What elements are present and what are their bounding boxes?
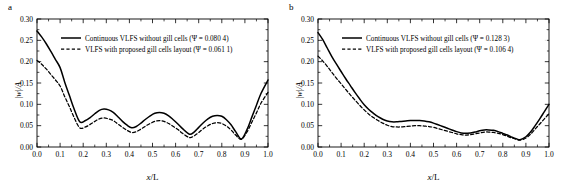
x-tick-label: 0.3: [383, 150, 393, 159]
y-tick-label: 0.05: [20, 121, 33, 130]
x-tick-label: 0.3: [102, 150, 112, 159]
y-tick-label: 0.30: [301, 15, 314, 24]
x-tick-label: 0.2: [360, 150, 370, 159]
plot-area: 0.00.10.20.30.40.50.60.70.80.91.00.000.0…: [281, 0, 562, 193]
y-tick-label: 0.20: [20, 57, 33, 66]
x-tick-label: 0.7: [475, 150, 485, 159]
y-tick-label: 0.25: [20, 36, 33, 45]
plot-area: 0.00.10.20.30.40.50.60.70.80.91.00.000.0…: [0, 0, 281, 193]
x-tick-label: 0.6: [452, 150, 462, 159]
figure-container: a|w|/Ax/L0.00.10.20.30.40.50.60.70.80.91…: [0, 0, 562, 193]
x-tick-label: 0.2: [79, 150, 89, 159]
y-axis-title: |w|/A: [295, 82, 304, 99]
y-tick-label: 0.00: [20, 143, 33, 152]
legend-label: Continuous VLFS without gill cells (Ψ = …: [366, 35, 510, 43]
x-tick-label: 0.0: [32, 150, 42, 159]
y-tick-label: 0.30: [20, 15, 33, 24]
y-tick-label: 0.00: [301, 143, 314, 152]
x-axis-title: x/L: [37, 172, 268, 182]
legend-label: VLFS with proposed gill cells layout (Ψ …: [366, 46, 514, 54]
x-tick-label: 0.8: [217, 150, 227, 159]
x-tick-label: 0.4: [406, 150, 416, 159]
panel-label: a: [8, 2, 12, 12]
x-axis-title: x/L: [318, 172, 549, 182]
x-tick-label: 0.8: [498, 150, 508, 159]
legend-label: Continuous VLFS without gill cells (Ψ = …: [85, 35, 229, 43]
x-tick-label: 0.6: [171, 150, 181, 159]
x-tick-label: 0.1: [55, 150, 65, 159]
x-tick-label: 0.9: [521, 150, 531, 159]
data-series-dashed: [318, 56, 549, 140]
chart-panel-b: b|w|/Ax/L0.00.10.20.30.40.50.60.70.80.91…: [281, 0, 562, 193]
x-tick-label: 1.0: [544, 150, 554, 159]
x-tick-label: 0.7: [194, 150, 204, 159]
legend-label: VLFS with proposed gill cells layout (Ψ …: [85, 46, 233, 54]
panel-label: b: [289, 2, 294, 12]
y-axis-title: |w|/A: [14, 82, 23, 99]
y-tick-label: 0.25: [301, 36, 314, 45]
x-tick-label: 0.0: [313, 150, 323, 159]
x-tick-label: 0.4: [125, 150, 135, 159]
x-tick-label: 0.5: [148, 150, 158, 159]
y-tick-label: 0.20: [301, 57, 314, 66]
x-tick-label: 0.1: [336, 150, 346, 159]
y-tick-label: 0.10: [301, 100, 314, 109]
y-tick-label: 0.05: [301, 121, 314, 130]
x-tick-label: 0.9: [240, 150, 250, 159]
y-tick-label: 0.10: [20, 100, 33, 109]
x-tick-label: 0.5: [429, 150, 439, 159]
x-tick-label: 1.0: [263, 150, 273, 159]
chart-panel-a: a|w|/Ax/L0.00.10.20.30.40.50.60.70.80.91…: [0, 0, 281, 193]
